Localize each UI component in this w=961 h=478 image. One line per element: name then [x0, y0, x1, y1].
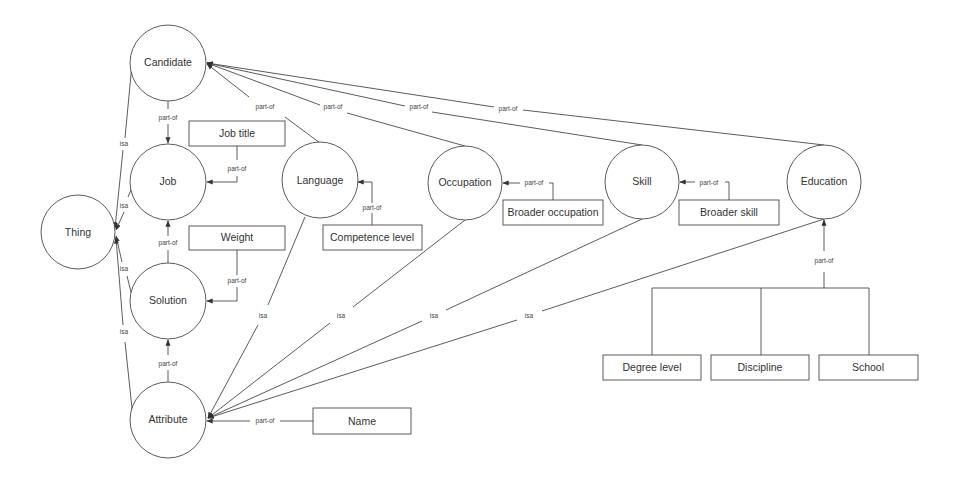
- edge-label-part-of: part-of: [159, 114, 178, 122]
- box-school[interactable]: School: [819, 355, 918, 380]
- node-label: Job: [160, 175, 177, 187]
- box-degree-level[interactable]: Degree level: [603, 355, 701, 380]
- edge-label-part-of: part-of: [256, 417, 275, 425]
- edge-label-part-of: part-of: [256, 103, 275, 111]
- node-education[interactable]: Education: [787, 145, 861, 219]
- edge-label-part-of: part-of: [525, 179, 544, 187]
- node-thing[interactable]: Thing: [41, 195, 115, 269]
- edge-broaderskill-partof-skill: part-of: [680, 179, 729, 200]
- edge-competence-partof-language: part-of: [358, 182, 382, 225]
- box-label: Weight: [221, 231, 254, 243]
- edge-label-part-of: part-of: [815, 257, 834, 265]
- edge-label-part-of: part-of: [228, 277, 247, 285]
- box-label: Competence level: [330, 231, 414, 243]
- node-language[interactable]: Language: [282, 142, 358, 218]
- node-label: Thing: [65, 226, 91, 238]
- edge-label-isa: isa: [120, 140, 129, 147]
- box-competence-level[interactable]: Competence level: [323, 225, 422, 250]
- box-label: Name: [348, 415, 376, 427]
- node-job[interactable]: Job: [130, 144, 206, 220]
- node-attribute[interactable]: Attribute: [130, 382, 206, 458]
- edge-broaderocc-partof-occupation: part-of: [503, 179, 553, 200]
- box-label: School: [852, 361, 884, 373]
- node-solution[interactable]: Solution: [130, 263, 206, 339]
- box-label: Broader occupation: [507, 206, 598, 218]
- box-broader-occupation[interactable]: Broader occupation: [503, 200, 603, 225]
- edge-label-isa: isa: [525, 312, 534, 319]
- edge-job-partof-candidate: part-of: [159, 101, 178, 143]
- ontology-diagram: isa isa isa isa part-of part-of: [0, 0, 961, 478]
- node-candidate[interactable]: Candidate: [130, 25, 206, 101]
- node-label: Solution: [149, 294, 187, 306]
- edge-label-part-of: part-of: [499, 105, 518, 113]
- edge-label-isa: isa: [259, 312, 268, 319]
- node-label: Skill: [632, 175, 651, 187]
- node-label: Education: [801, 175, 848, 187]
- node-label: Attribute: [148, 413, 187, 425]
- box-label: Degree level: [623, 361, 682, 373]
- edge-label-part-of: part-of: [363, 204, 382, 212]
- edge-education-components-partof-education: part-of: [652, 220, 869, 355]
- edge-label-part-of: part-of: [159, 239, 178, 247]
- edge-label-part-of: part-of: [159, 360, 178, 368]
- edge-label-part-of: part-of: [700, 179, 719, 187]
- edge-label-part-of: part-of: [410, 103, 429, 111]
- edge-education-isa-attribute: isa: [208, 219, 824, 418]
- edge-jobtitle-partof-job: part-of: [207, 146, 247, 182]
- edge-label-part-of: part-of: [324, 103, 343, 111]
- box-name[interactable]: Name: [313, 408, 411, 434]
- edge-weight-partof-solution: part-of: [207, 250, 247, 301]
- node-label: Candidate: [144, 56, 192, 68]
- node-label: Language: [297, 174, 344, 186]
- edge-label-isa: isa: [120, 328, 129, 335]
- box-broader-skill[interactable]: Broader skill: [679, 200, 779, 225]
- edge-label-isa: isa: [337, 312, 346, 319]
- box-label: Discipline: [738, 361, 783, 373]
- box-discipline[interactable]: Discipline: [711, 355, 809, 380]
- node-occupation[interactable]: Occupation: [428, 146, 502, 220]
- edge-attribute-partof-solution: part-of: [159, 340, 178, 382]
- edge-label-isa: isa: [120, 265, 129, 272]
- edge-label-isa: isa: [120, 202, 129, 209]
- node-skill[interactable]: Skill: [605, 145, 679, 219]
- edge-solution-partof-job: part-of: [159, 221, 178, 263]
- box-label: Job title: [219, 127, 255, 139]
- edge-education-partof-candidate: part-of: [207, 63, 824, 145]
- box-weight[interactable]: Weight: [189, 226, 285, 250]
- box-job-title[interactable]: Job title: [189, 121, 285, 146]
- edge-label-part-of: part-of: [228, 165, 247, 173]
- edge-label-isa: isa: [430, 312, 439, 319]
- box-label: Broader skill: [700, 206, 758, 218]
- edge-name-partof-attribute: part-of: [207, 417, 313, 425]
- node-label: Occupation: [438, 176, 491, 188]
